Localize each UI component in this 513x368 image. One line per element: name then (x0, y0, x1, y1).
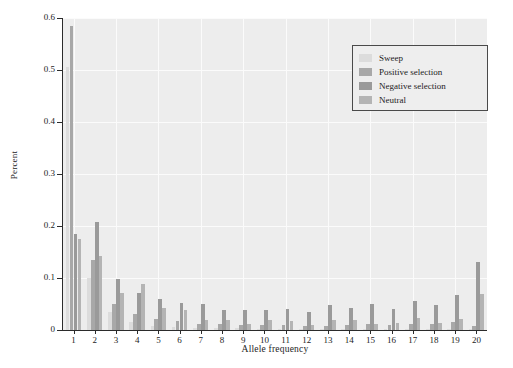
legend-label: Neutral (379, 94, 406, 106)
y-tick-mark (57, 278, 62, 279)
y-tick-mark (57, 122, 62, 123)
bar (353, 320, 357, 330)
bar (141, 284, 145, 330)
y-tick-label: 0.3 (15, 168, 55, 178)
bar (78, 239, 82, 330)
y-axis-title: Percent (9, 130, 19, 200)
x-tick-mark (286, 330, 287, 334)
y-tick-label: 0.4 (15, 116, 55, 126)
bar (438, 323, 442, 330)
x-tick-mark (349, 330, 350, 334)
y-tick-mark (57, 330, 62, 331)
legend-label: Sweep (379, 52, 403, 64)
y-tick-mark (57, 226, 62, 227)
y-axis-line (62, 18, 63, 331)
legend-swatch-icon (359, 68, 372, 76)
bar (184, 310, 188, 330)
x-tick-mark (413, 330, 414, 334)
x-tick-mark (95, 330, 96, 334)
y-tick-label: 0 (15, 324, 55, 334)
gridline-vertical (243, 18, 244, 330)
bar (417, 318, 421, 330)
legend-swatch-icon (359, 54, 372, 62)
legend-item[interactable]: Negative selection (359, 79, 481, 93)
gridline-horizontal (63, 122, 487, 123)
x-tick-mark (392, 330, 393, 334)
y-tick-label: 0.5 (15, 64, 55, 74)
gridline-vertical (158, 18, 159, 330)
bar (226, 320, 230, 330)
x-axis-title: Allele frequency (60, 344, 490, 354)
x-tick-mark (222, 330, 223, 334)
x-tick-mark (455, 330, 456, 334)
x-tick-mark (201, 330, 202, 334)
x-tick-mark (243, 330, 244, 334)
x-tick-mark (370, 330, 371, 334)
x-tick-mark (74, 330, 75, 334)
x-tick-mark (434, 330, 435, 334)
y-tick-mark (57, 174, 62, 175)
gridline-horizontal (63, 278, 487, 279)
gridline-vertical (286, 18, 287, 330)
y-tick-mark (57, 70, 62, 71)
x-tick-mark (180, 330, 181, 334)
legend-item[interactable]: Neutral (359, 93, 481, 107)
y-tick-label-wrap: 0.1 (0, 272, 55, 284)
bar (332, 320, 336, 330)
legend-item[interactable]: Sweep (359, 51, 481, 65)
bar (268, 320, 272, 330)
y-tick-label-wrap: 0.2 (0, 220, 55, 232)
gridline-vertical (201, 18, 202, 330)
y-tick-label-wrap: 0.6 (0, 12, 55, 24)
bar (459, 319, 463, 330)
legend-item[interactable]: Positive selection (359, 65, 481, 79)
x-tick-mark (158, 330, 159, 334)
bar (480, 294, 484, 330)
x-tick-mark (476, 330, 477, 334)
legend-label: Negative selection (379, 80, 446, 92)
x-tick-mark (137, 330, 138, 334)
bar (99, 256, 103, 330)
y-tick-label: 0.6 (15, 12, 55, 22)
x-axis-line (62, 330, 487, 331)
legend-label: Positive selection (379, 66, 442, 78)
bar (120, 293, 124, 330)
x-tick-mark (116, 330, 117, 334)
bar (290, 321, 294, 330)
chart-legend: SweepPositive selectionNegative selectio… (352, 45, 488, 111)
bar (396, 323, 400, 330)
bar (162, 308, 166, 330)
gridline-vertical (328, 18, 329, 330)
x-tick-mark (264, 330, 265, 334)
y-tick-mark (57, 18, 62, 19)
chart-figure: Percent 00.10.20.30.40.50.6 123456789101… (0, 0, 513, 368)
legend-swatch-icon (359, 82, 372, 90)
legend-swatch-icon (359, 96, 372, 104)
gridline-horizontal (63, 18, 487, 19)
y-tick-label: 0.1 (15, 272, 55, 282)
y-tick-label-wrap: 0.4 (0, 116, 55, 128)
x-tick-mark (307, 330, 308, 334)
gridline-horizontal (63, 174, 487, 175)
x-tick-mark (328, 330, 329, 334)
bar (205, 320, 209, 330)
y-tick-label: 0.2 (15, 220, 55, 230)
y-tick-label-wrap: 0.3 (0, 168, 55, 180)
gridline-horizontal (63, 226, 487, 227)
y-tick-label-wrap: 0 (0, 324, 55, 336)
y-tick-label-wrap: 0.5 (0, 64, 55, 76)
